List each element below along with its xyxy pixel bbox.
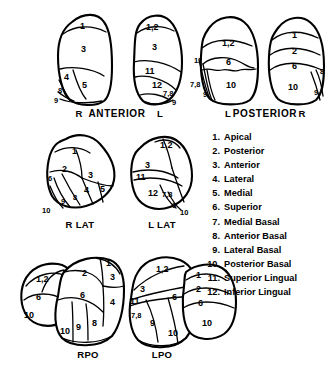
legend-item-label: Anterior [224,158,260,172]
view-label-posterior: POSTERIOR [233,108,297,119]
legend-item: 7.Medial Basal [205,215,333,229]
legend-item-label: Posterior [224,144,264,158]
segment-number: 9 [61,197,65,206]
view-label-l: L [157,108,163,119]
segment-number: 3 [140,284,145,294]
segment-number: 3 [152,42,157,52]
segment-number: 3 [110,272,115,282]
legend-item: 1.Apical [205,130,333,144]
legend-item-label: Lateral Basal [224,243,281,257]
segment-number: 11 [194,56,202,65]
segment-number: 1,2 [160,140,173,150]
legend-item: 10.Posterior Basal [205,257,333,271]
view-label-rpo: RPO [77,349,99,360]
segment-number: 7,8 [163,89,173,98]
diagram-right-lateral: 1 2 3 4 5 6 8 9 10 R LAT [42,135,114,230]
segment-number: 9 [172,201,176,210]
legend-item-number: 8. [205,229,220,243]
legend-item: 3.Anterior [205,158,333,172]
legend-item-number: 4. [205,172,220,186]
segment-number: 12 [152,80,162,90]
segment-number: 1 [106,258,111,268]
segment-number: 4 [110,297,115,307]
legend-item-number: 12. [205,285,220,299]
segment-number: 7,8 [131,311,141,320]
view-label-l-lat: L LAT [148,219,176,230]
legend-item: 6.Superior [205,200,333,214]
segment-number: 10 [288,82,298,92]
diagram-posterior-right: 1 2 6 10 8 9 R [269,18,324,119]
segment-number: 5 [82,80,87,90]
legend-item-label: Medial [224,186,253,200]
segment-number: 11 [136,172,146,182]
segment-number: 2 [292,46,297,56]
view-label-r: R [75,108,82,119]
legend-item-number: 1. [205,130,220,144]
segment-number: 6 [292,61,297,71]
segment-number: 8 [73,193,77,202]
segment-number: 4 [84,185,89,195]
legend-item-label: Inferior Lingual [224,285,291,299]
segment-number: 9 [203,90,207,99]
segment-number: 1,2 [156,264,169,274]
legend-item: 8.Anterior Basal [205,229,333,243]
view-label-anterior: ANTERIOR [88,108,145,119]
diagram-posterior-left: 1,2 6 10 11 7,8 9 L [190,17,258,119]
segment-number: 9 [172,98,176,107]
segment-number: 5 [100,184,105,194]
segment-number: 3 [81,44,86,54]
segment-number: 10 [180,208,188,217]
view-label-r-lat: R LAT [66,219,95,230]
segment-number: 7,8 [190,80,200,89]
view-label-lpo: LPO [152,349,172,360]
legend-item-number: 9. [205,243,220,257]
segment-number: 1,2 [36,274,49,284]
legend-item-number: 11. [205,271,220,285]
segment-number: 8 [320,67,324,76]
segment-number: 2 [82,268,87,278]
legend-item-number: 3. [205,158,220,172]
legend-item-number: 7. [205,215,220,229]
segment-number: 6 [172,292,177,302]
segment-number: 9 [76,322,81,332]
segment-number: 9 [314,88,318,97]
segment-number: 1 [292,30,297,40]
diagram-left-lateral: 1,2 3 11 12 7,8 9 10 L LAT [131,137,192,230]
segment-number: 7,8 [162,190,172,199]
legend-item-label: Lateral [224,172,254,186]
legend-item-number: 5. [205,186,220,200]
segment-number: 1,2 [146,22,159,32]
legend-item-number: 10. [205,257,220,271]
segment-number: 6 [48,174,52,183]
legend-item-number: 2. [205,144,220,158]
legend-item-label: Medial Basal [224,215,280,229]
legend-item-label: Superior Lingual [224,271,297,285]
segment-number: 11 [130,296,140,306]
segment-number: 10 [42,206,50,215]
legend-item-number: 6. [205,200,220,214]
segment-number: 8 [58,86,62,95]
view-label-r: R [298,108,305,119]
segment-number: 11 [145,66,155,76]
segment-number: 10 [168,328,178,338]
segment-number: 8 [92,318,97,328]
segment-number: 10 [226,80,236,90]
segment-number: 1 [196,270,201,280]
segment-number: 1,2 [222,38,235,48]
segment-number: 3 [145,160,150,170]
legend-item-label: Apical [224,130,252,144]
segment-number: 9 [150,318,155,328]
legend-list: 1.Apical 2.Posterior 3.Anterior 4.Latera… [205,130,333,299]
segment-number: 10 [202,318,212,328]
segment-number: 6 [226,57,231,67]
diagram-anterior-right: 1 3 4 5 8 9 R [54,15,112,119]
legend-item: 9.Lateral Basal [205,243,333,257]
segment-number: 9 [54,96,58,105]
segment-legend: 1.Apical 2.Posterior 3.Anterior 4.Latera… [205,130,333,299]
legend-item: 5.Medial [205,186,333,200]
legend-item-label: Anterior Basal [224,229,287,243]
legend-item-label: Superior [224,200,262,214]
segment-number: 1 [80,21,85,31]
view-label-l: L [225,108,231,119]
segment-number: 10 [24,310,34,320]
